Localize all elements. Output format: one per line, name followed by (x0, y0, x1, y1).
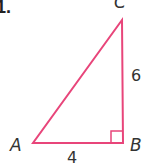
right-angle-marker (111, 131, 123, 143)
vertex-label-b: B (130, 137, 142, 154)
vertex-label-a: A (10, 137, 22, 154)
diagram: 1. C A B 6 4 (0, 0, 157, 168)
vertex-label-c: C (114, 0, 126, 11)
triangle-shape (33, 20, 123, 143)
side-label-bc: 6 (131, 68, 141, 84)
side-label-ab: 4 (67, 150, 77, 166)
